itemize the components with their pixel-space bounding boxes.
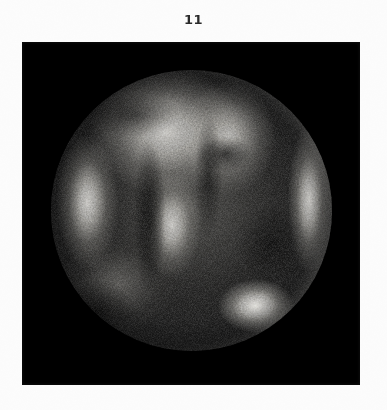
field-of-view-vignette — [51, 70, 332, 351]
figure-number-label: 11 — [0, 13, 387, 27]
circular-scan-field — [51, 70, 332, 351]
scan-image-plate — [22, 42, 360, 385]
page-canvas: 11 — [0, 0, 387, 410]
